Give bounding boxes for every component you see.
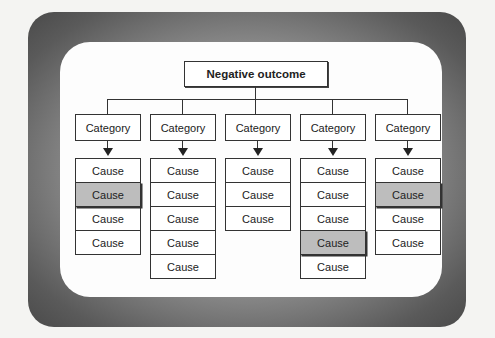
- cause-node: Cause: [75, 158, 141, 183]
- cause-column-1: Cause Cause Cause Cause: [75, 159, 141, 255]
- arrow-down-icon: [403, 148, 413, 156]
- cause-node-highlighted: Cause: [375, 182, 441, 207]
- cause-column-3: Cause Cause Cause: [225, 159, 291, 231]
- branch-connector-5: [407, 99, 408, 114]
- cause-node: Cause: [225, 182, 291, 207]
- arrow-down-icon: [253, 148, 263, 156]
- branch-connector-3: [255, 99, 256, 114]
- cause-node: Cause: [75, 206, 141, 231]
- cause-node: Cause: [375, 158, 441, 183]
- cause-node-highlighted: Cause: [300, 230, 366, 255]
- cause-node: Cause: [300, 254, 366, 279]
- cause-node: Cause: [300, 182, 366, 207]
- arrow-down-icon: [103, 148, 113, 156]
- cause-column-2: Cause Cause Cause Cause Cause: [150, 159, 216, 279]
- cause-node: Cause: [75, 230, 141, 255]
- cause-node: Cause: [150, 230, 216, 255]
- cause-node: Cause: [150, 158, 216, 183]
- branch-connector-4: [332, 99, 333, 114]
- category-node-2: Category: [150, 114, 216, 141]
- cause-node-highlighted: Cause: [75, 182, 141, 207]
- root-node-negative-outcome: Negative outcome: [184, 61, 328, 87]
- category-node-3: Category: [225, 114, 291, 141]
- cause-node: Cause: [300, 206, 366, 231]
- cause-node: Cause: [300, 158, 366, 183]
- arrow-down-icon: [178, 148, 188, 156]
- branch-connector-2: [182, 99, 183, 114]
- horizontal-connector: [107, 99, 408, 100]
- cause-column-5: Cause Cause Cause Cause: [375, 159, 441, 255]
- cause-node: Cause: [225, 206, 291, 231]
- cause-node: Cause: [150, 254, 216, 279]
- cause-node: Cause: [375, 206, 441, 231]
- category-node-4: Category: [300, 114, 366, 141]
- branch-connector-1: [107, 99, 108, 114]
- cause-node: Cause: [150, 182, 216, 207]
- category-node-5: Category: [375, 114, 441, 141]
- cause-node: Cause: [150, 206, 216, 231]
- cause-node: Cause: [225, 158, 291, 183]
- cause-column-4: Cause Cause Cause Cause Cause: [300, 159, 366, 279]
- cause-node: Cause: [375, 230, 441, 255]
- category-node-1: Category: [75, 114, 141, 141]
- arrow-down-icon: [328, 148, 338, 156]
